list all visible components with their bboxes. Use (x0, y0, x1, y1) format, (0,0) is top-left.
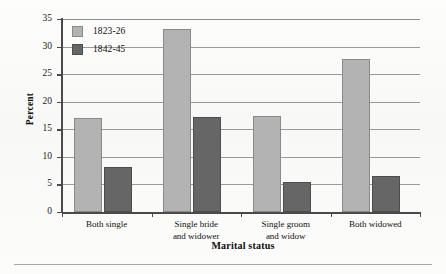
bar-0-2 (253, 116, 281, 212)
gridline (62, 19, 420, 20)
y-axis-tick (57, 129, 62, 130)
x-axis-tick (331, 212, 332, 217)
y-axis-tick (57, 102, 62, 103)
legend-item-0: 1823-26 (72, 22, 192, 40)
x-axis-tick (241, 212, 242, 217)
bar-1-2 (283, 182, 311, 212)
bar-0-3 (342, 59, 370, 212)
x-axis-category-label: Both widowed (331, 219, 421, 231)
x-axis-category-label: Both single (62, 219, 152, 231)
y-axis-tick (57, 19, 62, 20)
x-axis-category-label: Single brideand widower (152, 219, 242, 242)
bar-1-0 (104, 167, 132, 212)
chart-legend: 1823-261842-45 (72, 22, 192, 58)
legend-label: 1823-26 (93, 26, 125, 36)
y-axis-tick-label: 0 (28, 207, 52, 217)
x-axis-category-label-line: Both single (62, 219, 152, 231)
legend-item-1: 1842-45 (72, 40, 192, 58)
x-axis-category-label-line: Single bride (152, 219, 242, 231)
bar-0-0 (74, 118, 102, 212)
legend-swatch-icon (72, 44, 83, 55)
x-axis-category-label-line: Both widowed (331, 219, 421, 231)
x-axis-tick (152, 212, 153, 217)
legend-label: 1842-45 (93, 44, 125, 54)
bar-1-3 (372, 176, 400, 212)
y-axis-tick (57, 74, 62, 75)
bar-1-1 (193, 117, 221, 212)
x-axis-title: Marital status (0, 240, 446, 251)
y-axis-tick (57, 184, 62, 185)
page-bottom-rule (14, 264, 432, 265)
y-axis-title: Percent (25, 69, 35, 149)
y-axis-tick-label: 5 (28, 179, 52, 189)
chart-figure: 05101520253035 Percent Both singleSingle… (0, 0, 446, 274)
y-axis-tick-label: 35 (28, 14, 52, 24)
y-axis-tick (57, 157, 62, 158)
x-axis-tick (62, 212, 63, 217)
legend-swatch-icon (72, 26, 83, 37)
y-axis-tick-label: 30 (28, 42, 52, 52)
y-axis-tick (57, 47, 62, 48)
x-axis-category-label-line: Single groom (241, 219, 331, 231)
y-axis-tick-label: 10 (28, 152, 52, 162)
x-axis-category-label: Single groomand widow (241, 219, 331, 242)
x-axis-tick (420, 212, 421, 217)
